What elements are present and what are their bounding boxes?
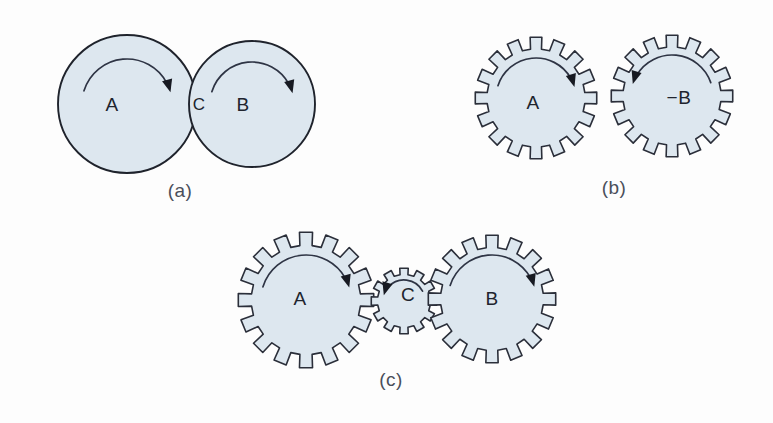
gear-label: A [105, 94, 118, 115]
panel-a: ABC(a) [58, 35, 315, 201]
wheel-outline[interactable] [189, 41, 315, 167]
c-gear-a[interactable]: A [238, 232, 373, 367]
panel-caption-b: (b) [602, 177, 627, 198]
b-gear-a[interactable]: A [475, 37, 596, 158]
wheel-outline[interactable] [58, 35, 196, 173]
panels-layer: ABC(a)A−B(b)ACB(c) [58, 35, 733, 390]
contact-point-label: C [193, 95, 205, 114]
gear-diagram-svg: ABC(a)A−B(b)ACB(c) [0, 0, 773, 423]
gear-figure-container: ABC(a)A−B(b)ACB(c) [0, 0, 773, 423]
gear-label: A [526, 92, 539, 113]
a-wheel-b[interactable]: B [189, 41, 315, 167]
c-gear-b[interactable]: B [428, 235, 555, 362]
panel-c: ACB(c) [238, 232, 555, 390]
gear-label: C [401, 284, 415, 305]
panel-b: A−B(b) [475, 35, 732, 198]
a-wheel-a[interactable]: A [58, 35, 196, 173]
gear-label: B [485, 288, 498, 309]
gear-label: B [236, 94, 249, 115]
panel-caption-a: (a) [168, 180, 193, 201]
panel-caption-c: (c) [379, 369, 403, 390]
gear-label: −B [667, 87, 692, 108]
c-gear-c[interactable]: C [371, 268, 436, 333]
gear-label: A [293, 288, 306, 309]
b-gear-b[interactable]: −B [611, 35, 732, 156]
